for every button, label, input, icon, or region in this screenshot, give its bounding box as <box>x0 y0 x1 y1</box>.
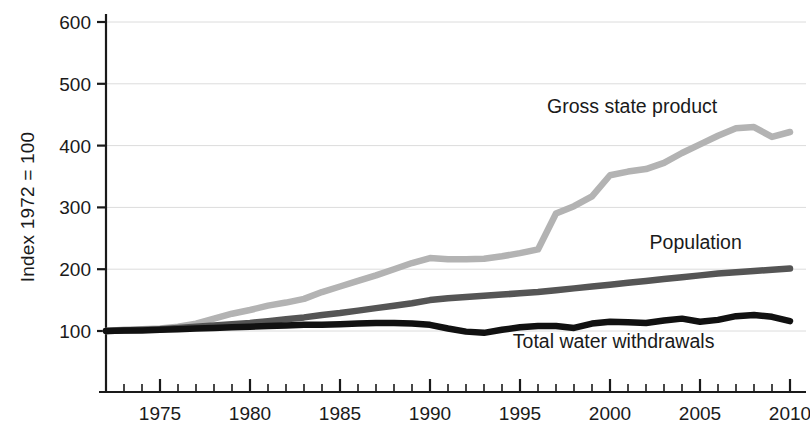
chart-container: Index 1972 = 100 100200300400500600 1975… <box>0 0 810 441</box>
x-axis: 19751980198519901995200020052010 <box>99 379 810 424</box>
x-tick-label: 2010 <box>769 403 810 424</box>
x-tick-label: 1990 <box>409 403 451 424</box>
y-tick-label: 300 <box>59 197 91 218</box>
series-labels: Gross state productPopulationTotal water… <box>513 95 742 352</box>
y-tick-label: 400 <box>59 136 91 157</box>
y-tick-label: 200 <box>59 259 91 280</box>
series-label-0: Gross state product <box>547 95 718 117</box>
line-chart: 100200300400500600 197519801985199019952… <box>0 0 810 441</box>
x-tick-label: 1975 <box>139 403 181 424</box>
x-tick-label: 1985 <box>319 403 361 424</box>
y-tick-label: 100 <box>59 321 91 342</box>
y-tick-label: 500 <box>59 74 91 95</box>
x-tick-label: 2000 <box>589 403 631 424</box>
x-tick-label: 1980 <box>229 403 271 424</box>
x-tick-label: 1995 <box>499 403 541 424</box>
y-tick-label: 600 <box>59 12 91 33</box>
series-label-2: Total water withdrawals <box>513 330 715 352</box>
x-tick-label: 2005 <box>679 403 721 424</box>
y-axis: 100200300400500600 <box>59 12 106 392</box>
series-label-1: Population <box>650 231 742 253</box>
gridlines <box>106 22 806 331</box>
